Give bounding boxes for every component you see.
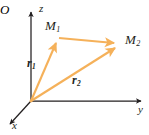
point-m2-label: M2 [125, 33, 140, 48]
point-m1-label: M1 [45, 19, 60, 34]
vector-r2-label: r2 [72, 74, 81, 88]
diagram-canvas [0, 0, 149, 135]
point-m1-base: M [45, 18, 56, 33]
vector-r1-subscript: 1 [32, 62, 36, 71]
point-m1-subscript: 1 [56, 25, 60, 34]
vector-r1-base: r [27, 56, 32, 70]
vector-r1-label: r1 [27, 57, 36, 71]
vectors-group [31, 38, 115, 101]
point-m2-subscript: 2 [136, 39, 140, 48]
vector-diagram-figure: z y x O M1 M2 r1 r2 [0, 0, 149, 135]
vector-r2-base: r [72, 73, 77, 87]
vector-r2-subscript: 2 [77, 79, 81, 88]
point-m2-base: M [125, 32, 136, 47]
vector-m1-m2-line [59, 38, 114, 43]
origin-point [30, 100, 33, 103]
x-axis-label: x [12, 120, 17, 131]
z-axis-label: z [39, 3, 43, 14]
y-axis-label: y [138, 104, 143, 115]
